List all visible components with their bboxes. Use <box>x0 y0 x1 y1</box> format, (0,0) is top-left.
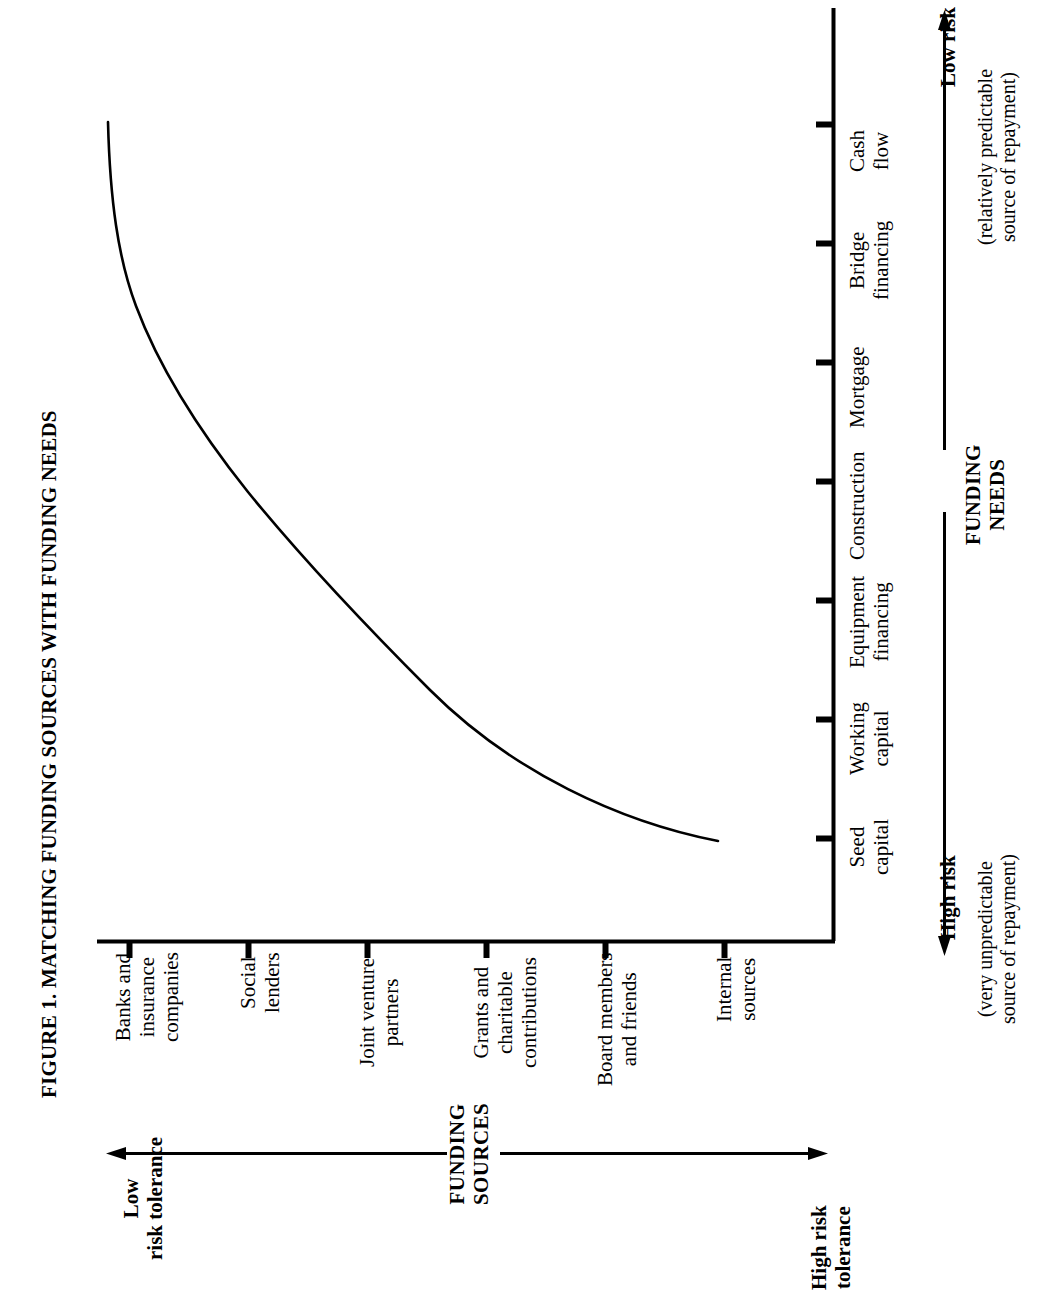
funding-needs-tick-label-construction: Construction <box>846 452 870 561</box>
funding-needs-tick-label-cash-flow: Cash flow <box>846 130 894 172</box>
page-title: FIGURE 1. MATCHING FUNDING SOURCES WITH … <box>38 410 62 1098</box>
funding-sources-tick-label-board-members-and-friends: Board members and friends <box>594 952 642 1086</box>
funding-sources-tick-label-joint-venture-partners: Joint venture partners <box>356 958 404 1067</box>
tick-label-line1: Bridge <box>846 221 870 300</box>
sublabel-line1: (very unpredictable <box>974 854 997 1024</box>
tick-label-line1: Social <box>237 952 261 1013</box>
high-tolerance-line2: tolerance <box>832 1205 856 1290</box>
tick-label-line2: and friends <box>618 952 642 1086</box>
tick-label-line1: Construction <box>846 452 870 561</box>
tick-label-line1: Banks and <box>112 952 136 1042</box>
tick-label-line1: Mortgage <box>846 346 870 428</box>
funding-needs-tick-label-working-capital: Working capital <box>846 702 894 775</box>
tick-label-line2: capital <box>870 702 894 775</box>
funding-sources-group-label: FUNDING SOURCES <box>446 1103 494 1205</box>
funding-sources-high-tolerance-label: High risk tolerance <box>808 1205 856 1290</box>
tick-label-line2: financing <box>870 221 894 300</box>
funding-needs-high-risk-label: High risk <box>937 855 961 940</box>
funding-needs-group-label: FUNDING NEEDS <box>962 444 1010 545</box>
risk-matching-curve <box>108 122 718 841</box>
tick-label-line2: flow <box>870 130 894 172</box>
tick-label-line2: lenders <box>261 952 285 1013</box>
tick-label-line3: companies <box>160 952 184 1042</box>
sublabel-line1: (relatively predictable <box>974 69 997 245</box>
tick-label-line2: capital <box>870 819 894 875</box>
funding-sources-tick-label-internal-sources: Internal sources <box>713 957 761 1022</box>
tick-label-line1: Joint venture <box>356 958 380 1067</box>
low-tolerance-line1: Low <box>120 1137 144 1260</box>
funding-needs-tick-label-seed-capital: Seed capital <box>846 819 894 875</box>
tick-label-line2: sources <box>737 957 761 1022</box>
funding-sources-tick-label-social-lenders: Social lenders <box>237 952 285 1013</box>
group-label-line2: NEEDS <box>986 444 1010 545</box>
funding-needs-high-risk-sublabel: (very unpredictable source of repayment) <box>974 854 1020 1024</box>
low-tolerance-line2: risk tolerance <box>144 1137 168 1260</box>
tick-label-line3: contributions <box>518 957 542 1068</box>
tick-label-line1: Grants and <box>470 957 494 1068</box>
funding-sources-high-tolerance-arrow <box>500 1147 828 1160</box>
tick-label-line1: Equipment <box>846 576 870 668</box>
funding-needs-tick-label-mortgage: Mortgage <box>846 346 870 428</box>
funding-sources-tick-label-banks-insurance-companies: Banks and insurance companies <box>112 952 184 1042</box>
funding-needs-tick-marks <box>816 125 834 839</box>
sublabel-line2: source of repayment) <box>997 69 1020 245</box>
tick-label-line2: financing <box>870 576 894 668</box>
tick-label-line1: Seed <box>846 819 870 875</box>
sublabel-line2: source of repayment) <box>997 854 1020 1024</box>
tick-label-line1: Working <box>846 702 870 775</box>
tick-label-line2: insurance <box>136 952 160 1042</box>
tick-label-line1: Cash <box>846 130 870 172</box>
tick-label-line2: partners <box>380 958 404 1067</box>
group-label-line2: SOURCES <box>470 1103 494 1205</box>
high-tolerance-line1: High risk <box>808 1205 832 1290</box>
funding-sources-low-tolerance-label: Low risk tolerance <box>120 1137 168 1260</box>
group-label-line1: FUNDING <box>446 1103 470 1205</box>
tick-label-line2: charitable <box>494 957 518 1068</box>
group-label-line1: FUNDING <box>962 444 986 545</box>
tick-label-line1: Internal <box>713 957 737 1022</box>
funding-needs-low-risk-sublabel: (relatively predictable source of repaym… <box>974 69 1020 245</box>
figure-root: FIGURE 1. MATCHING FUNDING SOURCES WITH … <box>0 0 1045 1314</box>
funding-needs-tick-label-equipment-financing: Equipment financing <box>846 576 894 668</box>
funding-needs-low-risk-label: Low risk <box>937 7 961 87</box>
tick-label-line1: Board members <box>594 952 618 1086</box>
funding-sources-tick-label-grants-charitable-contributions: Grants and charitable contributions <box>470 957 542 1068</box>
funding-needs-tick-label-bridge-financing: Bridge financing <box>846 221 894 300</box>
